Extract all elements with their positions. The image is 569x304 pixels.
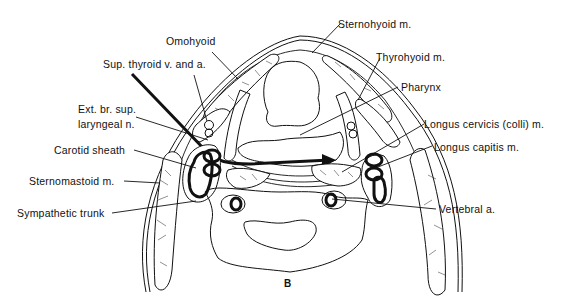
label-longus-cervicis: Longus cervicis (colli) m.	[424, 118, 544, 130]
label-thyrohyoid: Thyrohyoid m.	[376, 51, 445, 63]
label-sternomastoid: Sternomastoid m.	[29, 175, 114, 187]
label-omohyoid: Omohyoid	[166, 35, 215, 47]
vertebra	[205, 188, 368, 272]
right-longus-colli	[312, 164, 361, 186]
left-longus-colli	[226, 168, 270, 188]
label-pharynx: Pharynx	[401, 81, 441, 93]
anatomy-figure: Omohyoid Sup. thyroid v. and a. Ext. br.…	[0, 0, 569, 304]
label-sympathetic-trunk: Sympathetic trunk	[17, 207, 104, 219]
label-carotid-sheath: Carotid sheath	[54, 144, 125, 156]
laryngeal-lumen	[264, 61, 320, 126]
right-sup-thyroid-vessel	[347, 122, 355, 130]
right-sternohyoid-muscle	[322, 56, 391, 123]
vertebral-canal	[244, 220, 316, 250]
label-vertebral-artery: Vertebral a.	[439, 203, 495, 215]
vertebral-artery	[326, 194, 336, 206]
label-sternohyoid: Sternohyoid m.	[338, 18, 411, 30]
label-longus-capitis: Longus capitis m.	[434, 141, 519, 153]
label-sup-thyroid: Sup. thyroid v. and a.	[103, 58, 206, 70]
label-ext-br-sup-2: laryngeal n.	[78, 118, 135, 130]
label-ext-br-sup-1: Ext. br. sup.	[78, 103, 136, 115]
panel-label: B	[284, 278, 291, 289]
